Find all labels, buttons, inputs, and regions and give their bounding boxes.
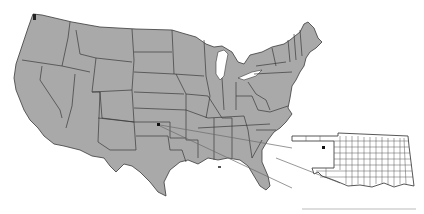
us-map-figure <box>0 0 424 214</box>
gulf-coast-detail <box>218 166 221 168</box>
inset-marker <box>322 146 325 149</box>
location-marker <box>157 123 160 126</box>
us-landmass <box>14 14 322 196</box>
oklahoma-inset <box>292 133 414 187</box>
map-svg <box>0 0 424 214</box>
puget-sound-detail <box>33 14 36 20</box>
